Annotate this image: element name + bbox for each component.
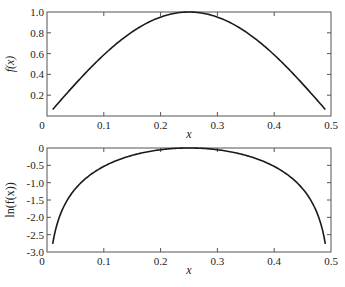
y-tick-label: 0.6 — [30, 48, 44, 60]
y-tick-label: 0.2 — [30, 89, 44, 101]
x-tick-label: 0 — [39, 119, 45, 131]
top-data-line — [53, 12, 326, 109]
x-tick-label: 0.2 — [154, 255, 168, 267]
x-tick-label: 0.3 — [211, 255, 225, 267]
x-tick-label: 0.4 — [267, 255, 281, 267]
x-tick-label: 0.5 — [324, 119, 338, 131]
x-tick-label: 0.4 — [267, 119, 281, 131]
bottom-plot: 00.10.20.30.40.5 0-0.5-1.0-1.5-2.0-2.5-3… — [3, 142, 338, 277]
y-tick-label: -2.5 — [27, 229, 45, 241]
y-tick-label: 0 — [39, 142, 45, 154]
y-tick-label: -0.5 — [27, 159, 45, 171]
y-tick-label: 1.0 — [30, 6, 44, 18]
bottom-plot-frame — [47, 148, 331, 252]
figure: 00.10.20.30.40.5 0.20.40.60.81.0 x f(x) … — [0, 0, 345, 287]
bottom-y-axis-label: ln(f(x)) — [3, 182, 17, 217]
y-tick-label: 0.4 — [30, 68, 44, 80]
bottom-x-axis-label: x — [185, 263, 192, 277]
top-plot-frame — [47, 12, 331, 116]
top-plot: 00.10.20.30.40.5 0.20.40.60.81.0 x f(x) — [3, 6, 338, 141]
bottom-data-line — [53, 148, 326, 244]
top-x-ticks: 00.10.20.30.40.5 — [39, 12, 338, 131]
x-tick-label: 0.5 — [324, 255, 338, 267]
top-y-ticks: 0.20.40.60.81.0 — [30, 6, 331, 101]
top-x-axis-label: x — [185, 127, 192, 141]
bottom-y-ticks: 0-0.5-1.0-1.5-2.0-2.5-3.0 — [27, 142, 331, 258]
bottom-x-ticks: 00.10.20.30.40.5 — [39, 148, 338, 267]
x-tick-label: 0.3 — [211, 119, 225, 131]
y-tick-label: -1.0 — [27, 177, 45, 189]
top-y-axis-label: f(x) — [3, 56, 17, 73]
x-tick-label: 0.2 — [154, 119, 168, 131]
y-tick-label: 0.8 — [30, 27, 44, 39]
y-tick-label: -3.0 — [27, 246, 45, 258]
y-tick-label: -2.0 — [27, 211, 45, 223]
x-tick-label: 0.1 — [97, 255, 111, 267]
x-tick-label: 0.1 — [97, 119, 111, 131]
y-tick-label: -1.5 — [27, 194, 45, 206]
